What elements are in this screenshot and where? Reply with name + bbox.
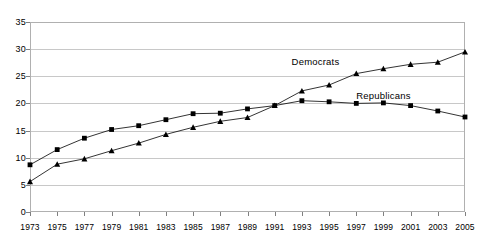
data-point-square	[164, 117, 169, 122]
data-point-triangle	[435, 59, 441, 64]
y-tick-mark	[26, 49, 30, 50]
data-point-triangle	[27, 179, 33, 185]
data-point-square	[327, 99, 332, 104]
y-tick-mark	[26, 22, 30, 23]
x-tick-mark	[166, 212, 167, 216]
data-point-square	[408, 103, 413, 108]
x-tick-mark	[383, 212, 384, 216]
x-tick-mark	[112, 212, 113, 216]
data-point-square	[82, 136, 87, 141]
series-annotation-democrats: Democrats	[292, 56, 340, 67]
y-tick-mark	[26, 131, 30, 132]
x-tick-mark	[139, 212, 140, 216]
y-tick-mark	[26, 158, 30, 159]
data-point-square	[245, 107, 250, 112]
data-point-triangle	[462, 49, 468, 55]
x-tick-mark	[30, 212, 31, 216]
data-point-triangle	[245, 115, 251, 121]
data-point-square	[136, 123, 141, 128]
x-tick-mark	[84, 212, 85, 216]
x-tick-mark	[465, 212, 466, 216]
x-tick-mark	[329, 212, 330, 216]
series-layer	[0, 0, 484, 248]
data-point-square	[55, 147, 60, 152]
data-point-triangle	[326, 82, 332, 88]
data-point-square	[28, 162, 33, 167]
y-tick-mark	[26, 103, 30, 104]
x-tick-mark	[220, 212, 221, 216]
data-point-triangle	[81, 156, 87, 162]
x-tick-mark	[275, 212, 276, 216]
data-point-triangle	[136, 140, 142, 146]
y-tick-mark	[26, 185, 30, 186]
data-point-square	[272, 103, 277, 108]
series-annotation-republicans: Republicans	[356, 89, 410, 100]
data-point-square	[463, 115, 468, 120]
data-point-square	[300, 98, 305, 103]
y-tick-mark	[26, 76, 30, 77]
data-point-square	[381, 101, 386, 106]
x-tick-mark	[302, 212, 303, 216]
x-tick-mark	[57, 212, 58, 216]
x-tick-mark	[193, 212, 194, 216]
data-point-square	[435, 109, 440, 114]
data-point-square	[109, 127, 114, 132]
data-point-square	[218, 111, 223, 116]
x-tick-mark	[248, 212, 249, 216]
line-chart: 05101520253035 1973197519771979198119831…	[0, 0, 484, 248]
data-point-square	[191, 111, 196, 116]
x-tick-mark	[356, 212, 357, 216]
x-tick-mark	[438, 212, 439, 216]
data-point-square	[354, 101, 359, 106]
x-tick-mark	[411, 212, 412, 216]
